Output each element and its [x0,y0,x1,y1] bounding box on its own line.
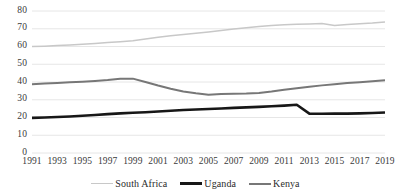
legend-item-uganda[interactable]: Uganda [180,178,236,189]
series-lines [32,22,385,118]
legend-label: Kenya [273,178,300,189]
x-axis-tick-label: 2009 [245,156,273,166]
x-axis-tick-label: 2001 [144,156,172,166]
x-axis-tick-label: 1997 [94,156,122,166]
x-axis-tick-label: 1991 [18,156,46,166]
series-line-south-africa [32,22,385,47]
y-axis-tick-label: 50 [17,58,27,68]
series-line-uganda [32,105,385,118]
x-axis-tick-label: 2005 [195,156,223,166]
legend-swatch-icon [180,182,202,185]
x-axis-tick-label: 2013 [295,156,323,166]
x-axis-tick-label: 2017 [346,156,374,166]
x-axis-tick-label: 1993 [43,156,71,166]
chart-legend: South AfricaUgandaKenya [0,178,391,189]
x-axis-tick-label: 2007 [220,156,248,166]
legend-swatch-icon [249,183,271,185]
x-axis-tick-label: 1999 [119,156,147,166]
y-axis-tick-label: 0 [22,147,27,157]
x-axis-tick-label: 2011 [270,156,298,166]
y-axis-tick-label: 10 [17,129,27,139]
x-axis-tick-label: 2019 [371,156,399,166]
y-axis-tick-label: 20 [17,111,27,121]
y-axis-tick-label: 30 [17,93,27,103]
y-axis-tick-label: 60 [17,40,27,50]
series-line-kenya [32,79,385,95]
legend-swatch-icon [91,183,113,185]
x-axis-tick-label: 1995 [68,156,96,166]
legend-item-kenya[interactable]: Kenya [249,178,300,189]
x-axis-tick-label: 2015 [321,156,349,166]
x-axis-tick-label: 2003 [169,156,197,166]
legend-item-south-africa[interactable]: South Africa [91,178,167,189]
y-axis-tick-label: 40 [17,76,27,86]
y-axis-tick-label: 80 [17,5,27,15]
y-axis-tick-label: 70 [17,22,27,32]
legend-label: Uganda [204,178,236,189]
legend-label: South Africa [115,178,167,189]
